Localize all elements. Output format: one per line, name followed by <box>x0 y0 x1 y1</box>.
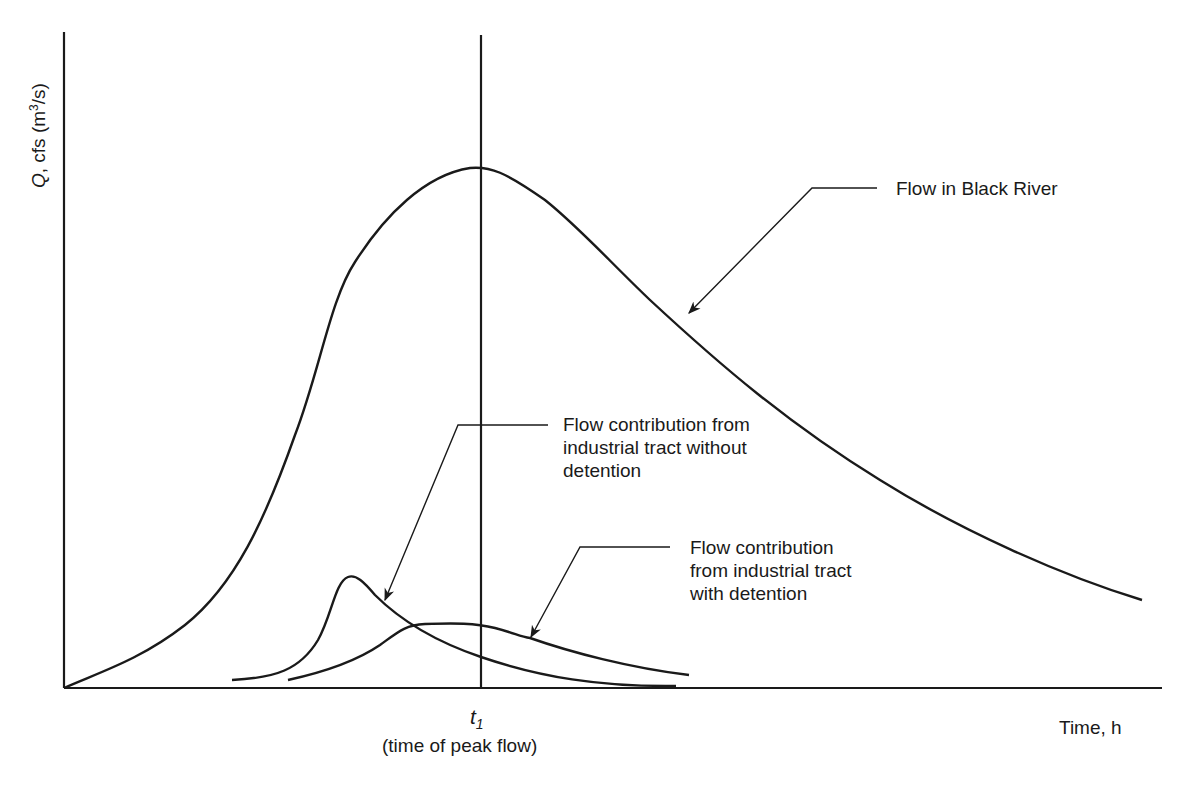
with-detention-curve <box>288 623 689 680</box>
annotation-line: Flow contribution from <box>563 413 750 436</box>
without-detention-annotation: Flow contribution from industrial tract … <box>563 413 750 482</box>
annotation-line: industrial tract without <box>563 436 750 459</box>
annotation-line: detention <box>563 459 750 482</box>
peak-time-tick-label: t1 <box>470 705 484 732</box>
without-detention-leader <box>385 425 548 600</box>
without-detention-curve <box>232 576 676 686</box>
black-river-leader <box>689 188 877 313</box>
hydrograph-plot <box>0 0 1185 785</box>
y-axis-label: Q, cfs (m3/s) <box>27 83 50 188</box>
x-axis-label: Time, h <box>1059 716 1122 739</box>
with-detention-annotation: Flow contribution from industrial tract … <box>690 536 852 605</box>
annotation-line: Flow contribution <box>690 536 852 559</box>
peak-time-caption: (time of peak flow) <box>382 734 537 757</box>
black-river-annotation: Flow in Black River <box>896 177 1058 200</box>
annotation-line: with detention <box>690 582 852 605</box>
with-detention-leader <box>531 547 670 637</box>
annotation-line: from industrial tract <box>690 559 852 582</box>
